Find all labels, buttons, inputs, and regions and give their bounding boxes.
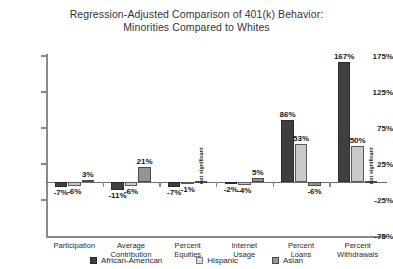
legend-item-african-american[interactable]: African-American (90, 256, 162, 265)
bar[interactable] (351, 146, 364, 182)
plot-area: -7%-6%3%-11%-6%21%-7%-1%not significant-… (46, 56, 386, 236)
bar-value-label: 167% (327, 52, 361, 61)
bar-value-label: 86% (271, 110, 305, 119)
bar-value-label: -1% (171, 185, 205, 194)
bar-value-label: 21% (128, 157, 162, 166)
category-label-line: Percent (329, 241, 386, 250)
chart-title-line-1: Regression-Adjusted Comparison of 401(k)… (0, 8, 393, 21)
bar-value-label: -6% (114, 187, 148, 196)
bar-value-label: 3% (71, 170, 105, 179)
chart-container: Regression-Adjusted Comparison of 401(k)… (0, 0, 393, 269)
not-significant-label: not significant (198, 147, 204, 184)
bar[interactable] (338, 62, 351, 182)
x-axis-line (46, 236, 387, 238)
bar[interactable] (68, 182, 81, 186)
bar-group: -7%-6%3% (55, 56, 95, 236)
bar[interactable] (295, 144, 308, 182)
bar[interactable] (138, 167, 151, 182)
bar-group: -11%-6%21% (111, 56, 151, 236)
bar[interactable] (252, 178, 265, 182)
bar-group: -7%-1%not significant (168, 56, 208, 236)
legend-swatch-icon-hispanic (196, 257, 203, 264)
not-significant-label: not significant (368, 147, 374, 184)
chart-title-line-2: Minorities Compared to Whites (0, 21, 393, 34)
bar[interactable] (308, 182, 321, 186)
bar[interactable] (125, 182, 138, 186)
bar-value-label: 53% (284, 134, 318, 143)
bar-group: 167%50%not significant (338, 56, 378, 236)
legend-item-hispanic[interactable]: Hispanic (196, 256, 238, 265)
chart-legend: African-American Hispanic Asian (0, 256, 393, 265)
category-label-line: Percent (273, 241, 330, 250)
bar[interactable] (82, 180, 95, 182)
legend-label-african-american: African-American (101, 256, 162, 265)
bar-value-label: -6% (298, 187, 332, 196)
legend-label-hispanic: Hispanic (207, 256, 238, 265)
category-label-line: Percent (159, 241, 216, 250)
bar[interactable] (55, 182, 68, 187)
bar-value-label: 50% (341, 136, 375, 145)
category-label-line: Participation (46, 241, 103, 250)
bar-value-label: -6% (57, 187, 91, 196)
bar-group: 86%53%-6% (281, 56, 321, 236)
bar-group: -2%-4%5% (225, 56, 265, 236)
legend-swatch-icon-african-american (90, 257, 97, 264)
bar[interactable] (238, 182, 251, 185)
category-label-line: Average (103, 241, 160, 250)
category-label-line: Internet (216, 241, 273, 250)
chart-title: Regression-Adjusted Comparison of 401(k)… (0, 8, 393, 34)
legend-swatch-icon-asian (272, 257, 279, 264)
bar[interactable] (281, 120, 294, 182)
bar-value-label: -4% (227, 186, 261, 195)
legend-item-asian[interactable]: Asian (272, 256, 303, 265)
x-axis-category-label: Participation (46, 241, 103, 250)
bar-value-label: 5% (241, 168, 275, 177)
legend-label-asian: Asian (283, 256, 303, 265)
